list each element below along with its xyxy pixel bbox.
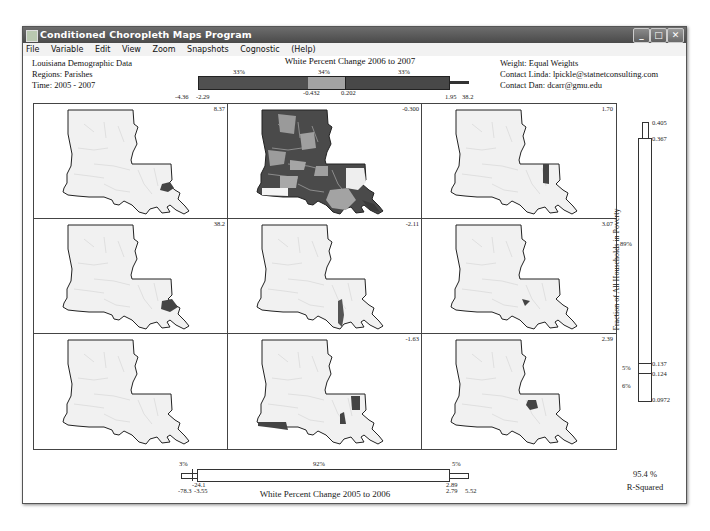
bottom-label-low: -3.55 [194,487,208,494]
top-slider-high-segment[interactable] [345,76,450,90]
right-slider-title-box: Fraction of All Households in Poverty [606,190,622,360]
louisiana-map [34,104,229,218]
louisiana-map [422,104,617,218]
louisiana-map [34,219,229,333]
top-label-mid2: 0.202 [341,89,356,96]
menu-cognostic[interactable]: Cognostic [240,45,279,54]
right-label-high: 0.367 [652,135,667,142]
right-label-max: 0.405 [652,119,667,126]
panel-value: -2.11 [406,220,419,227]
menu-variable[interactable]: Variable [51,45,83,54]
map-panel[interactable]: 3.07 [421,218,617,335]
bottom-label-high: 2.79 [446,487,457,494]
bottom-slider-title: White Percent Change 2005 to 2006 [230,489,420,499]
map-panel[interactable]: 38.2 [33,218,229,335]
bottom-pct-mid: 92% [313,460,325,467]
top-slider-title: White Percent Change 2006 to 2007 [230,56,470,66]
dataset-info: Louisiana Demographic Data Regions: Pari… [32,58,132,91]
louisiana-map [34,334,229,448]
title-bar[interactable]: Conditioned Choropleth Maps Program _ □ … [23,27,686,43]
contact-dan: Contact Dan: dcarr@gmu.edu [500,80,658,91]
right-slider-title: Fraction of All Households in Poverty [612,185,621,355]
map-panel[interactable] [33,333,229,450]
panel-value: 1.70 [602,105,613,112]
contact-linda: Contact Linda: lpickle@statnetconsulting… [500,69,658,80]
menu-bar: File Variable Edit View Zoom Snapshots C… [23,43,686,56]
menu-view[interactable]: View [122,45,141,54]
menu-file[interactable]: File [26,45,39,54]
bottom-pct-high: 5% [452,460,461,467]
right-slider-div1 [638,363,651,364]
bottom-slider-tick [192,469,193,481]
close-button[interactable]: ✕ [667,28,684,43]
bottom-label-min: -78.3 [178,487,192,494]
top-slider-mid-segment[interactable] [308,76,345,90]
right-label-mid1: 0.137 [652,360,667,367]
top-slider-low-segment[interactable] [198,76,310,90]
top-label-min: -4.36 [175,93,189,100]
menu-snapshots[interactable]: Snapshots [187,45,229,54]
map-panel[interactable]: 2.39 [421,333,617,450]
right-pct-low: 6% [622,382,631,389]
regions-label: Regions: Parishes [32,69,132,80]
right-label-min: 0.0972 [652,396,670,403]
top-label-low: -2.29 [196,93,210,100]
top-label-high: 1.95 [445,93,456,100]
right-slider-div2 [638,373,651,374]
louisiana-map [422,334,617,448]
panel-value: 38.2 [214,220,225,227]
right-pct-mid: 5% [622,364,631,371]
contact-info: Weight: Equal Weights Contact Linda: lpi… [500,58,658,91]
weight-label: Weight: Equal Weights [500,58,658,69]
top-label-mid1: -0.432 [303,89,320,96]
r-squared-value: 95.4 % [610,468,680,481]
app-icon [26,30,38,42]
panel-value: 8.37 [214,105,225,112]
time-label: Time: 2005 - 2007 [32,80,132,91]
map-panel[interactable]: 8.37 [33,103,229,220]
louisiana-map [228,104,423,218]
louisiana-map [228,219,423,333]
maximize-button[interactable]: □ [650,28,667,43]
panel-value: -0.300 [402,105,419,112]
r-squared-label: R-Squared [610,481,680,494]
louisiana-map [422,219,617,333]
bottom-pct-low: 3% [179,460,188,467]
map-panel[interactable]: 1.70 [421,103,617,220]
top-pct-mid: 34% [318,68,330,75]
map-panel[interactable]: -1.63 [227,333,423,450]
bottom-slider-box[interactable] [197,469,450,482]
top-pct-low: 33% [233,68,245,75]
right-label-mid2: 0.124 [652,370,667,377]
menu-edit[interactable]: Edit [95,45,111,54]
menu-zoom[interactable]: Zoom [152,45,175,54]
menu-help[interactable]: (Help) [291,45,315,54]
top-pct-high: 33% [398,68,410,75]
louisiana-map [228,334,423,448]
window-title: Conditioned Choropleth Maps Program [40,27,252,43]
top-label-max: 38.2 [462,93,473,100]
panel-value: -1.63 [405,335,419,342]
dataset-label: Louisiana Demographic Data [32,58,132,69]
r-squared: 95.4 % R-Squared [610,468,680,494]
map-panel[interactable]: -2.11 [227,218,423,335]
bottom-label-max: 5.52 [465,487,476,494]
minimize-button[interactable]: _ [633,28,650,43]
map-panel[interactable]: -0.300 [227,103,423,220]
